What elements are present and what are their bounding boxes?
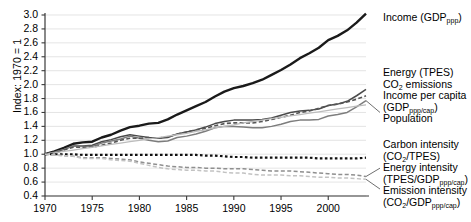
legend-item-carbon-intensity[interactable]: Carbon intensity(CO2/TPES) bbox=[383, 139, 459, 163]
x-tick-label: 2000 bbox=[308, 202, 348, 214]
y-tick-label: 2.0 bbox=[8, 78, 38, 90]
legend-item-income-per-capita[interactable]: Income per capita(GDPppp/cap) bbox=[383, 90, 466, 114]
y-tick-label: 2.6 bbox=[8, 36, 38, 48]
y-tick-label: 1.2 bbox=[8, 133, 38, 145]
legend-item-emission-intensity[interactable]: Emission intensity(CO2/GDPppp/cap) bbox=[383, 185, 467, 209]
series-line-energy-intensity-tpes-gdp-ppp-cap bbox=[45, 154, 366, 176]
legend-item-population[interactable]: Population bbox=[383, 113, 433, 125]
y-tick-label: 0.8 bbox=[8, 161, 38, 173]
x-tick-label: 1975 bbox=[72, 202, 112, 214]
y-tick-label: 2.8 bbox=[8, 22, 38, 34]
legend-item-energy-intensity[interactable]: Energy intensity(TPES/GDPppp/cap) bbox=[383, 162, 468, 186]
legend-leader-line bbox=[366, 168, 380, 176]
y-tick-label: 0.4 bbox=[8, 189, 38, 201]
legend-item-energy[interactable]: Energy (TPES) bbox=[383, 67, 454, 79]
legend-item-income[interactable]: Income (GDPppp) bbox=[383, 12, 462, 25]
x-tick-label: 1985 bbox=[167, 202, 207, 214]
series-line-energy-tpes bbox=[45, 89, 366, 154]
x-tick-label: 1995 bbox=[261, 202, 301, 214]
x-tick-label: 1990 bbox=[214, 202, 254, 214]
y-tick-label: 2.2 bbox=[8, 64, 38, 76]
y-tick-label: 1.0 bbox=[8, 147, 38, 159]
y-tick-label: 2.4 bbox=[8, 50, 38, 62]
chart-container: Index: 1970 = 1 3.02.82.62.42.22.01.81.6… bbox=[0, 0, 471, 222]
x-tick-label: 1970 bbox=[25, 202, 65, 214]
series-line-income-gdp-ppp bbox=[45, 14, 366, 155]
y-tick-label: 1.8 bbox=[8, 92, 38, 104]
series-line-emission-intensity-co2-gdp-ppp-cap bbox=[45, 154, 366, 179]
y-tick-label: 1.4 bbox=[8, 119, 38, 131]
legend-leader-line bbox=[366, 101, 380, 113]
legend-leader-line bbox=[366, 179, 380, 189]
x-tick-label: 1980 bbox=[119, 202, 159, 214]
y-tick-label: 0.6 bbox=[8, 175, 38, 187]
y-tick-label: 1.6 bbox=[8, 105, 38, 117]
y-tick-label: 3.0 bbox=[8, 8, 38, 20]
